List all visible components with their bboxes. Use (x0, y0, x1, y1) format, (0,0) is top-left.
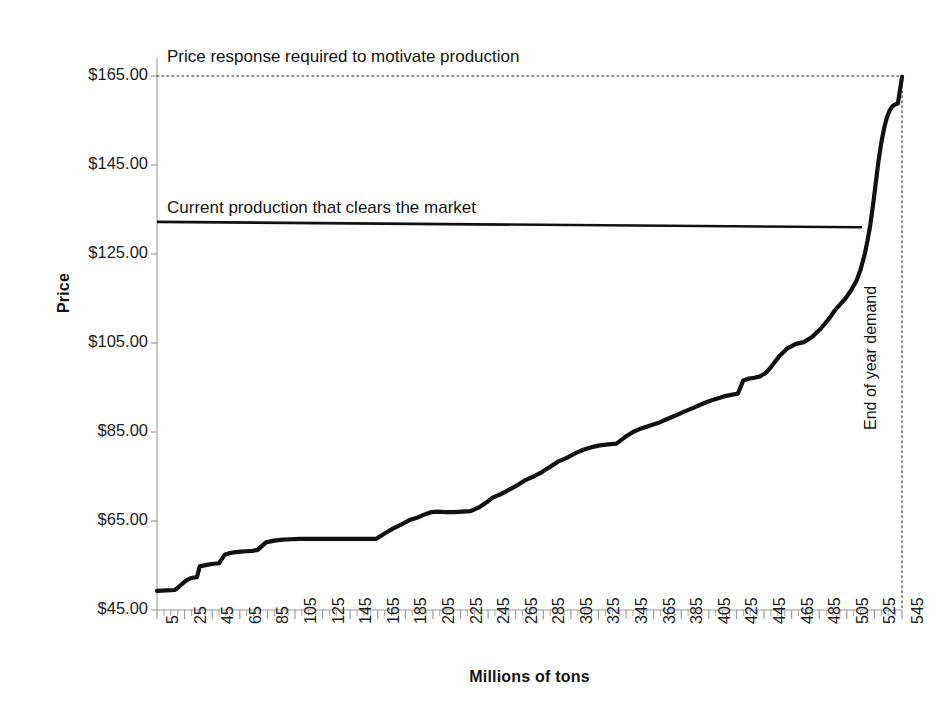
x-axis-tick-labels: 5254565851051251451651852052252452652853… (0, 0, 950, 723)
x-axis-tick-label: 185 (412, 597, 430, 624)
x-axis-tick-label: 405 (716, 597, 734, 624)
x-axis-tick-label: 145 (357, 597, 375, 624)
x-axis-tick-label: 445 (771, 597, 789, 624)
x-axis-tick-label: 305 (578, 597, 596, 624)
x-axis-tick-label: 85 (274, 606, 292, 624)
x-axis-tick-label: 485 (826, 597, 844, 624)
annotation-end-of-year-demand-label: End of year demand (862, 230, 880, 430)
x-axis-tick-label: 165 (385, 597, 403, 624)
x-axis-tick-label: 545 (909, 597, 927, 624)
x-axis-tick-label: 265 (523, 597, 541, 624)
x-axis-tick-label: 245 (495, 597, 513, 624)
chart-container: $165.00$145.00$125.00$105.00$85.00$65.00… (0, 0, 950, 723)
x-axis-tick-label: 325 (605, 597, 623, 624)
x-axis-tick-label: 525 (881, 597, 899, 624)
x-axis-tick-label: 425 (743, 597, 761, 624)
x-axis-tick-label: 225 (468, 597, 486, 624)
x-axis-tick-label: 65 (247, 606, 265, 624)
annotation-price-response-label: Price response required to motivate prod… (167, 47, 519, 67)
x-axis-tick-label: 105 (302, 597, 320, 624)
x-axis-tick-label: 385 (688, 597, 706, 624)
x-axis-tick-label: 125 (330, 597, 348, 624)
x-axis-tick-label: 45 (219, 606, 237, 624)
x-axis-title: Millions of tons (157, 668, 902, 686)
x-axis-tick-label: 5 (164, 615, 182, 624)
x-axis-tick-label: 365 (661, 597, 679, 624)
x-axis-tick-label: 465 (799, 597, 817, 624)
x-axis-tick-label: 505 (854, 597, 872, 624)
x-axis-tick-label: 285 (550, 597, 568, 624)
x-axis-tick-label: 205 (440, 597, 458, 624)
annotation-current-production-label: Current production that clears the marke… (167, 198, 476, 218)
x-axis-tick-label: 345 (633, 597, 651, 624)
y-axis-title: Price (55, 233, 73, 353)
x-axis-tick-label: 25 (192, 606, 210, 624)
